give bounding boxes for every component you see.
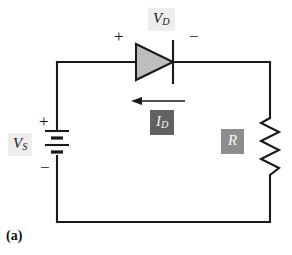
diode-voltage-symbol: V	[153, 10, 162, 26]
diode-current-subscript: D	[161, 119, 168, 130]
source-voltage-label: VS	[8, 133, 32, 156]
panel-caption: (a)	[6, 228, 22, 244]
source-voltage-subscript: S	[22, 141, 27, 152]
resistor-label: R	[221, 129, 244, 154]
diode-current-label: ID	[150, 110, 174, 135]
current-arrow	[131, 97, 185, 105]
circuit-figure: VD VS ID R + − + − (a)	[0, 0, 292, 255]
diode-triangle	[136, 44, 173, 80]
current-arrow-head	[131, 97, 142, 105]
battery-minus-sign: −	[40, 159, 50, 176]
resistor-symbol-text: R	[228, 132, 237, 148]
resistor-zigzag	[261, 118, 279, 175]
diode-cathode-minus-sign: −	[189, 28, 199, 45]
diode-voltage-label: VD	[148, 8, 175, 31]
diode-anode-plus-sign: +	[114, 28, 124, 45]
resistor-symbol	[261, 118, 279, 175]
diode-voltage-subscript: D	[162, 16, 169, 27]
diode-symbol	[136, 40, 173, 84]
battery-plus-sign: +	[39, 113, 49, 130]
source-voltage-symbol: V	[13, 135, 22, 151]
battery-symbol	[45, 131, 69, 152]
